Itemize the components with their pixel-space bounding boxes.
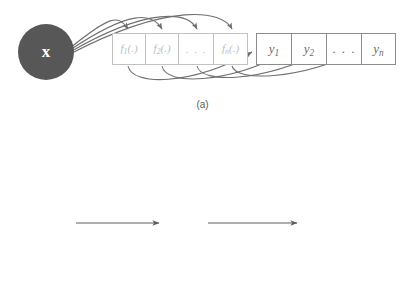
figure-container: x f1(.) f2(.) . . . fn(.) y1 y2: [0, 0, 405, 299]
panel-b-arrows: [0, 0, 405, 129]
panel-b: x f(.) y (b): [0, 170, 405, 299]
